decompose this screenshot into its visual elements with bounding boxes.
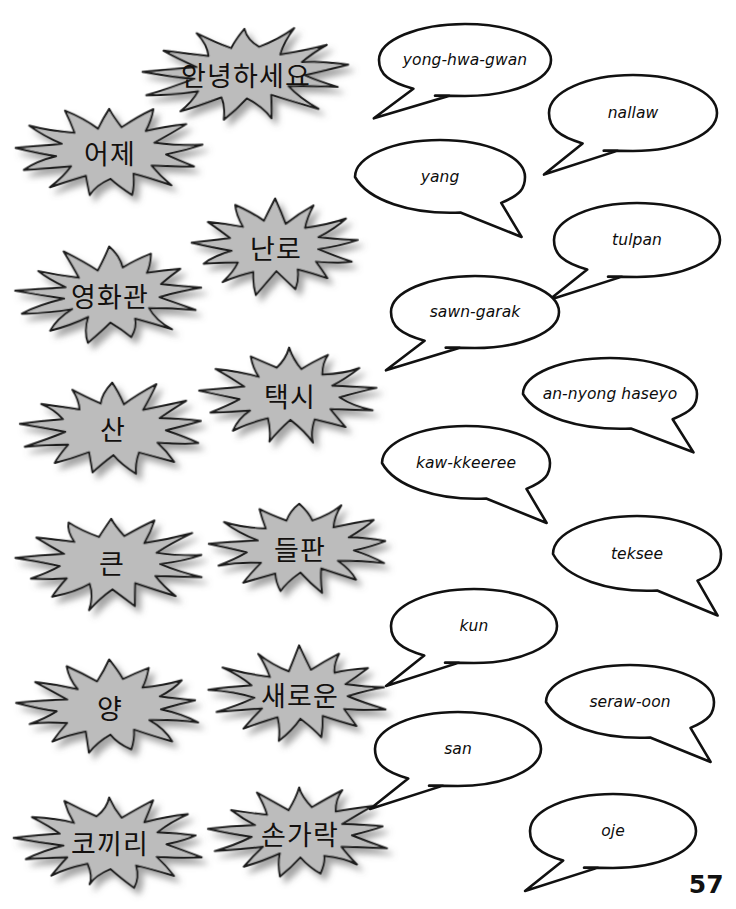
romanization-label: kun xyxy=(460,617,489,635)
korean-word-label: 택시 xyxy=(264,376,316,415)
text-layer: 안녕하세요어제난로영화관택시산들판큰새로운양손가락코끼리yong-hwa-gwa… xyxy=(0,0,736,909)
romanization-label: an-nyong haseyo xyxy=(543,385,678,403)
korean-word-label: 영화관 xyxy=(71,276,149,315)
korean-word-label: 어제 xyxy=(84,133,136,172)
korean-word-label: 새로운 xyxy=(261,675,339,714)
korean-word-label: 들판 xyxy=(274,529,326,568)
romanization-label: sawn-garak xyxy=(430,303,521,321)
page-number: 57 xyxy=(689,870,724,899)
romanization-label: san xyxy=(444,740,472,758)
romanization-label: nallaw xyxy=(608,104,659,122)
korean-word-label: 안녕하세요 xyxy=(181,55,311,94)
korean-word-label: 큰 xyxy=(99,543,125,582)
romanization-label: seraw-oon xyxy=(589,693,670,711)
worksheet-page: 안녕하세요어제난로영화관택시산들판큰새로운양손가락코끼리yong-hwa-gwa… xyxy=(0,0,736,909)
romanization-label: oje xyxy=(601,822,625,840)
romanization-label: teksee xyxy=(611,545,663,563)
korean-word-label: 코끼리 xyxy=(71,823,149,862)
romanization-label: kaw-kkeeree xyxy=(416,454,516,472)
romanization-label: yang xyxy=(421,168,460,186)
romanization-label: tulpan xyxy=(612,231,662,249)
korean-word-label: 양 xyxy=(97,688,123,727)
korean-word-label: 난로 xyxy=(250,228,302,267)
korean-word-label: 산 xyxy=(100,409,126,448)
korean-word-label: 손가락 xyxy=(261,814,339,853)
romanization-label: yong-hwa-gwan xyxy=(403,51,527,69)
